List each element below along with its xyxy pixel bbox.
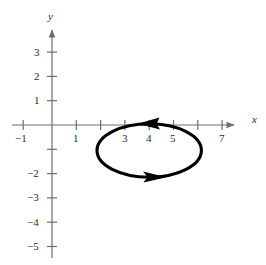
graph-figure: y x −1 1 3 4 5 7 3 2 1 −2 −3 −4 −5 [0,0,266,265]
x-tick-label--1: −1 [15,133,27,144]
coordinate-plane-svg [0,0,266,265]
x-tick-label-1: 1 [73,133,79,144]
y-tick-label--4: −4 [27,217,39,228]
y-tick-label-1: 1 [34,95,40,106]
y-tick-label-3: 3 [34,47,40,58]
y-tick-label--3: −3 [27,192,39,203]
y-axis-label: y [48,11,53,22]
x-tick-label-4: 4 [146,133,152,144]
x-tick-label-7: 7 [219,133,225,144]
y-tick-label--2: −2 [27,168,39,179]
x-tick-label-3: 3 [122,133,128,144]
x-axis-label: x [252,114,257,125]
x-tick-label-5: 5 [170,133,176,144]
y-tick-label--5: −5 [27,241,39,252]
y-tick-label-2: 2 [34,71,40,82]
